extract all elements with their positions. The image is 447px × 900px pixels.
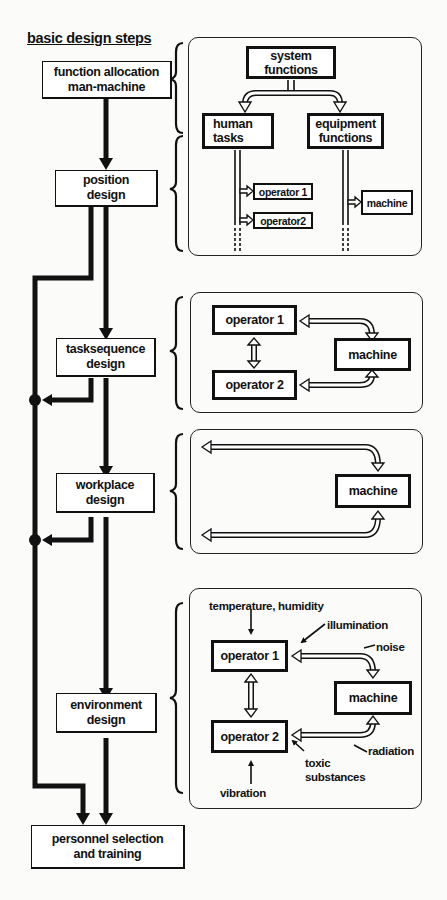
- box-system-functions: systemfunctions: [246, 46, 336, 79]
- box-operator-2: operator 2: [212, 370, 297, 400]
- step-label: design: [70, 713, 142, 728]
- box-machine: machine: [334, 338, 411, 371]
- step-label: design: [66, 357, 145, 372]
- box-label: functions: [264, 63, 318, 77]
- box-operator-1: operator 1: [253, 183, 313, 200]
- label-substances: substances: [305, 771, 365, 784]
- step-label: position: [83, 173, 129, 188]
- step-function-allocation: function allocationman-machine: [42, 61, 172, 99]
- box-label: system: [264, 49, 318, 63]
- diagram-canvas: basic design steps function allocationma…: [0, 0, 447, 900]
- box-machine: machine: [335, 474, 411, 508]
- braces: [170, 43, 183, 793]
- box-operator-2: operator2: [253, 212, 313, 229]
- box-machine: machine: [361, 190, 413, 215]
- junction-dots: [29, 394, 52, 546]
- step-label: function allocation: [54, 65, 159, 80]
- step-position-design: positiondesign: [55, 170, 158, 207]
- diagram-title: basic design steps: [27, 30, 151, 46]
- label-toxic: toxic: [305, 757, 330, 770]
- box-label: human: [213, 117, 252, 131]
- step-environment-design: environmentdesign: [56, 693, 157, 733]
- box-label: equipment: [315, 117, 376, 131]
- label-temperature-humidity: temperature, humidity: [209, 600, 323, 613]
- box-operator-2: operator 2: [211, 720, 288, 753]
- step-label: design: [83, 188, 129, 203]
- box-label: tasks: [213, 131, 252, 145]
- label-illumination: illumination: [327, 619, 388, 632]
- step-workplace-design: workplacedesign: [56, 473, 155, 513]
- box-operator-1: operator 1: [211, 640, 288, 672]
- step-label: workplace: [76, 478, 134, 493]
- step-label: environment: [70, 698, 142, 713]
- label-vibration: vibration: [220, 787, 266, 800]
- step-label: and training: [52, 847, 164, 862]
- box-operator-1: operator 1: [212, 305, 297, 335]
- box-equipment-functions: equipmentfunctions: [307, 113, 384, 149]
- box-human-tasks: humantasks: [202, 113, 274, 149]
- step-label: design: [76, 493, 134, 508]
- step-personnel-selection: personnel selectionand training: [31, 825, 185, 869]
- box-label: functions: [315, 131, 376, 145]
- label-radiation: radiation: [368, 745, 414, 758]
- step-tasksequence-design: tasksequencedesign: [56, 338, 156, 377]
- box-machine: machine: [334, 681, 412, 715]
- step-label: personnel selection: [52, 832, 164, 847]
- step-label: tasksequence: [66, 342, 145, 357]
- step-label: man-machine: [54, 80, 159, 95]
- label-noise: noise: [376, 641, 405, 654]
